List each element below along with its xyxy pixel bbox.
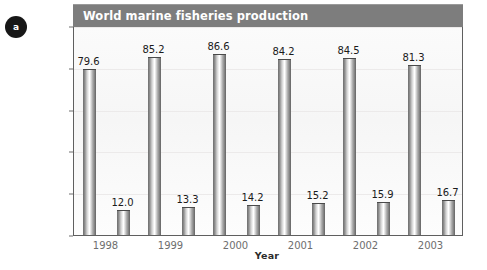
bar-value-label: 12.0 [112, 197, 134, 208]
bar [278, 59, 291, 235]
x-axis-title: Year [255, 250, 279, 261]
bar [343, 58, 356, 235]
x-tick-label: 1999 [158, 240, 183, 251]
x-tick-label: 1998 [93, 240, 118, 251]
figure-label-badge: a [5, 16, 27, 38]
bar-value-label: 84.5 [338, 45, 360, 56]
figure-label-text: a [13, 23, 19, 32]
bar-value-label: 86.6 [208, 41, 230, 52]
gridline [74, 111, 462, 112]
gridline [74, 69, 462, 70]
bar [213, 54, 226, 235]
bar [312, 203, 325, 235]
chart-title: World marine fisheries production [73, 9, 308, 23]
bar-value-label: 15.9 [372, 189, 394, 200]
bar-value-label: 84.2 [273, 46, 295, 57]
x-tick-label: 2000 [223, 240, 248, 251]
bar [408, 65, 421, 235]
y-tick-mark [69, 152, 73, 153]
y-tick-mark [69, 110, 73, 111]
x-tick-label: 2002 [353, 240, 378, 251]
x-tick-label: 2001 [288, 240, 313, 251]
bar [442, 200, 455, 235]
y-tick-mark [69, 68, 73, 69]
bar [148, 57, 161, 235]
bar-value-label: 15.2 [307, 190, 329, 201]
gridline [74, 152, 462, 153]
bar [247, 205, 260, 235]
bar-value-label: 81.3 [403, 52, 425, 63]
bar-value-label: 85.2 [143, 44, 165, 55]
chart-figure: a World marine fisheries production Mill… [0, 0, 487, 270]
chart-title-bar: World marine fisheries production [73, 4, 463, 27]
bar [182, 207, 195, 235]
y-tick-mark [69, 27, 73, 28]
bar-value-label: 79.6 [78, 56, 100, 67]
gridline [74, 27, 462, 28]
bar [377, 202, 390, 235]
bar-value-label: 16.7 [437, 187, 459, 198]
x-tick-label: 2003 [418, 240, 443, 251]
y-tick-mark [69, 194, 73, 195]
gridline [74, 194, 462, 195]
bar-value-label: 14.2 [242, 192, 264, 203]
bar [117, 210, 130, 235]
bar-value-label: 13.3 [177, 194, 199, 205]
bar [83, 69, 96, 235]
y-tick-mark [69, 236, 73, 237]
